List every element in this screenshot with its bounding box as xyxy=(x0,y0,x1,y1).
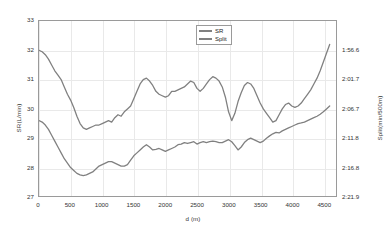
legend-swatch-icon xyxy=(199,38,212,40)
y-tick-left: 28 xyxy=(10,164,34,171)
legend-label: Split xyxy=(215,36,227,42)
series-line-sr xyxy=(39,44,330,129)
x-tick: 4500 xyxy=(308,201,340,208)
plot-area xyxy=(38,20,337,197)
chart-legend: SRSplit xyxy=(196,25,232,45)
legend-label: SR xyxy=(215,28,223,34)
legend-item: Split xyxy=(199,36,227,42)
y-tick-right: 2:11.8 xyxy=(342,134,359,141)
x-tick: 1500 xyxy=(117,201,149,208)
y-tick-left: 30 xyxy=(10,105,34,112)
y-tick-left: 29 xyxy=(10,134,34,141)
x-tick: 3000 xyxy=(213,201,245,208)
legend-item: SR xyxy=(199,28,227,34)
data-lines xyxy=(39,21,336,197)
x-tick: 2500 xyxy=(181,201,213,208)
y-tick-right: 2:06.7 xyxy=(342,105,359,112)
y-axis-label-right: Split(min/500m) xyxy=(376,96,383,141)
x-tick: 4000 xyxy=(276,201,308,208)
x-tick: 500 xyxy=(54,201,86,208)
x-axis-label: d (m) xyxy=(0,215,386,222)
legend-swatch-icon xyxy=(199,30,212,32)
y-tick-left: 32 xyxy=(10,46,34,53)
x-tick: 3500 xyxy=(245,201,277,208)
y-tick-right: 1:56.6 xyxy=(342,46,359,53)
series-line-split xyxy=(39,106,330,176)
y-tick-left: 33 xyxy=(10,16,34,23)
y-tick-left: 31 xyxy=(10,75,34,82)
x-tick: 2000 xyxy=(149,201,181,208)
y-tick-left: 27 xyxy=(10,193,34,200)
y-tick-right: 2:16.8 xyxy=(342,164,359,171)
x-tick: 0 xyxy=(22,201,54,208)
y-tick-right: 2:21.9 xyxy=(342,193,359,200)
chart-figure: SR(L/min) Split(min/500m) d (m) 27282930… xyxy=(0,0,386,236)
y-tick-right: 2:01.7 xyxy=(342,75,359,82)
x-tick: 1000 xyxy=(86,201,118,208)
